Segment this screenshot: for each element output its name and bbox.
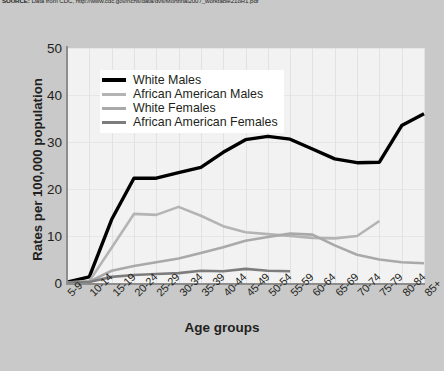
legend-swatch xyxy=(102,93,126,96)
legend-swatch xyxy=(102,107,126,110)
legend-label: African American Males xyxy=(133,87,263,101)
legend-item: White Females xyxy=(102,101,278,115)
source-label: SOURCE: xyxy=(2,0,30,4)
y-tick-label: 10 xyxy=(36,229,62,244)
source-text: Data from CDC, http://www.cdc.gov/nchs/d… xyxy=(30,0,259,4)
legend-label: White Males xyxy=(133,73,201,87)
legend-label: African American Females xyxy=(133,115,278,129)
legend-item: African American Males xyxy=(102,87,278,101)
legend-swatch xyxy=(102,78,126,82)
source-note: SOURCE: Data from CDC, http://www.cdc.go… xyxy=(2,0,258,5)
y-axis-line xyxy=(66,46,68,285)
legend-item: African American Females xyxy=(102,115,278,129)
gridline-vertical xyxy=(424,48,425,283)
chart-legend: White MalesAfrican American MalesWhite F… xyxy=(100,70,284,133)
y-tick-label: 50 xyxy=(36,41,62,56)
x-axis-label: Age groups xyxy=(4,320,440,335)
y-tick-label: 30 xyxy=(36,135,62,150)
y-tick-label: 20 xyxy=(36,182,62,197)
y-axis-label-holder: Rates per 100,000 population xyxy=(12,52,34,282)
y-tick-label: 40 xyxy=(36,88,62,103)
legend-swatch xyxy=(102,121,126,124)
x-axis-ticks: 5-910-1415-1920-2425-2930-3435-3940-4445… xyxy=(4,288,440,322)
y-axis-ticks: 01020304050 xyxy=(32,48,62,283)
legend-item: White Males xyxy=(102,73,278,87)
figure-panel: Rates per 100,000 population 01020304050… xyxy=(4,22,440,349)
legend-label: White Females xyxy=(133,101,216,115)
